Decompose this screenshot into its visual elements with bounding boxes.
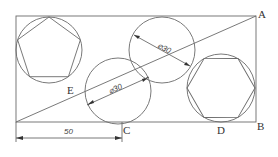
pentagon-circumcircle [16, 17, 82, 83]
point-label-b: B [257, 120, 264, 132]
hexagon [179, 44, 264, 132]
point-label-a: A [258, 8, 266, 20]
arrow-icon [16, 136, 23, 140]
point-label-c: C [123, 124, 130, 136]
arrow-icon [87, 100, 94, 105]
point-label-e: E [67, 84, 74, 96]
width-dimension-label: 50 [64, 127, 73, 136]
point-label-d: D [217, 124, 225, 136]
lower-diameter-label: ⌀30 [107, 82, 124, 96]
arrow-icon [184, 62, 190, 66]
hexagon-circumcircle [187, 54, 255, 122]
arrow-icon [115, 136, 122, 140]
diagonal-line [16, 16, 256, 122]
arrow-icon [134, 35, 140, 39]
geometry-diagram: ⌀30 ⌀30 50 A B C D E [0, 0, 278, 157]
